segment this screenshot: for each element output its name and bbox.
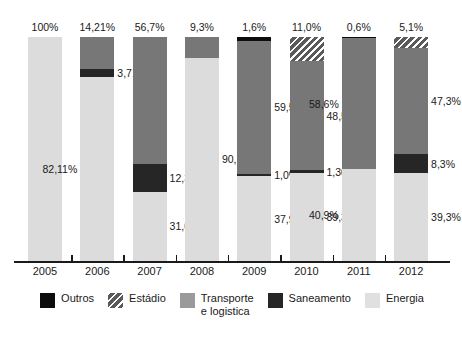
bar-segment-2008-transporte[interactable]: 9,3% bbox=[185, 37, 219, 58]
bar-2011[interactable]: 0,6%58,6%40,9% bbox=[342, 37, 376, 261]
stacked-bar-chart: 100%14,21%3,71%82,11%56,7%12,3%31,0%9,3%… bbox=[0, 0, 462, 337]
x-tick-label-2005: 2005 bbox=[19, 265, 71, 277]
x-tick-2007 bbox=[123, 255, 124, 262]
legend-swatch-estadio-icon bbox=[108, 293, 123, 308]
x-tick-2010 bbox=[280, 255, 281, 262]
value-label-2006-energia: 82,11% bbox=[42, 164, 77, 175]
x-tick-2008 bbox=[176, 255, 177, 262]
legend-swatch-saneamento-icon bbox=[268, 293, 283, 308]
bar-2007[interactable]: 56,7%12,3%31,0% bbox=[133, 37, 167, 261]
plot-area: 100%14,21%3,71%82,11%56,7%12,3%31,0%9,3%… bbox=[0, 0, 462, 262]
chart-legend: OutrosEstádioTransporte e logisticaSanea… bbox=[14, 292, 450, 328]
bar-segment-2007-saneamento[interactable]: 12,3% bbox=[133, 164, 167, 192]
legend-swatch-energia-icon bbox=[365, 293, 380, 308]
x-tick-2012 bbox=[385, 255, 386, 262]
bar-segment-2010-transporte[interactable]: 48,5% bbox=[290, 61, 324, 170]
value-label-2011-transporte: 58,6% bbox=[309, 98, 339, 109]
x-tick-label-2012: 2012 bbox=[385, 265, 437, 277]
bar-2005[interactable]: 100% bbox=[28, 37, 62, 261]
x-tick-2009 bbox=[228, 255, 229, 262]
legend-swatch-outros-icon bbox=[40, 293, 55, 308]
x-tick-label-2006: 2006 bbox=[71, 265, 123, 277]
legend-item-outros[interactable]: Outros bbox=[40, 292, 94, 308]
x-tick-label-2009: 2009 bbox=[228, 265, 280, 277]
bar-segment-2011-energia[interactable]: 40,9% bbox=[342, 169, 376, 261]
bar-segment-2012-transporte[interactable]: 47,3% bbox=[394, 48, 428, 154]
bar-2009[interactable]: 1,6%59,5%1,0%37,9% bbox=[237, 37, 271, 261]
legend-item-estadio[interactable]: Estádio bbox=[108, 292, 166, 308]
bar-segment-2009-transporte[interactable]: 59,5% bbox=[237, 41, 271, 174]
bar-segment-2008-energia[interactable]: 90,7% bbox=[185, 58, 219, 261]
x-tick-label-2008: 2008 bbox=[176, 265, 228, 277]
legend-swatch-transporte-icon bbox=[180, 293, 195, 308]
value-label-2010-estadio: 11,0% bbox=[292, 22, 321, 33]
x-tick-label-2010: 2010 bbox=[281, 265, 333, 277]
bar-segment-2007-energia[interactable]: 31,0% bbox=[133, 192, 167, 261]
bar-segment-2006-saneamento[interactable]: 3,71% bbox=[80, 69, 114, 77]
bar-segment-2009-energia[interactable]: 37,9% bbox=[237, 176, 271, 261]
bar-2010[interactable]: 11,0%48,5%1,30%39,3% bbox=[290, 37, 324, 261]
value-label-2005-energia: 100% bbox=[32, 22, 59, 33]
bar-segment-2011-transporte[interactable]: 58,6% bbox=[342, 38, 376, 169]
legend-label-outros: Outros bbox=[61, 292, 94, 305]
value-label-2012-estadio: 5,1% bbox=[399, 22, 423, 33]
legend-label-transporte: Transporte e logistica bbox=[201, 292, 254, 317]
value-label-2006-transporte: 14,21% bbox=[79, 22, 115, 33]
bar-segment-2006-transporte[interactable]: 14,21% bbox=[80, 37, 114, 69]
value-label-2012-transporte: 47,3% bbox=[431, 96, 461, 107]
x-tick-2006 bbox=[71, 255, 72, 262]
bar-segment-2012-energia[interactable]: 39,3% bbox=[394, 173, 428, 261]
value-label-2011-energia: 40,9% bbox=[309, 210, 339, 221]
bar-segment-2007-transporte[interactable]: 56,7% bbox=[133, 37, 167, 164]
bar-segment-2005-energia[interactable]: 100% bbox=[28, 37, 62, 261]
x-tick-2011 bbox=[333, 255, 334, 262]
bar-2012[interactable]: 5,1%47,3%8,3%39,3% bbox=[394, 37, 428, 261]
value-label-2007-transporte: 56,7% bbox=[135, 22, 165, 33]
bar-segment-2010-estadio[interactable]: 11,0% bbox=[290, 37, 324, 62]
value-label-2008-transporte: 9,3% bbox=[190, 22, 214, 33]
legend-item-energia[interactable]: Energia bbox=[365, 292, 424, 308]
bar-2008[interactable]: 9,3%90,7% bbox=[185, 37, 219, 261]
value-label-2012-energia: 39,3% bbox=[431, 211, 461, 222]
value-label-2012-saneamento: 8,3% bbox=[431, 158, 455, 169]
legend-label-estadio: Estádio bbox=[129, 292, 166, 305]
legend-item-transporte[interactable]: Transporte e logistica bbox=[180, 292, 254, 317]
legend-label-energia: Energia bbox=[386, 292, 424, 305]
x-tick-label-2007: 2007 bbox=[124, 265, 176, 277]
bar-segment-2012-estadio[interactable]: 5,1% bbox=[394, 37, 428, 48]
legend-label-saneamento: Saneamento bbox=[289, 292, 351, 305]
x-tick-label-2011: 2011 bbox=[333, 265, 385, 277]
bar-segment-2006-energia[interactable]: 82,11% bbox=[80, 77, 114, 261]
bar-segment-2012-saneamento[interactable]: 8,3% bbox=[394, 154, 428, 173]
bar-2006[interactable]: 14,21%3,71%82,11% bbox=[80, 37, 114, 261]
value-label-2009-outros: 1,6% bbox=[242, 22, 266, 33]
value-label-2011-outros: 0,6% bbox=[347, 22, 371, 33]
legend-item-saneamento[interactable]: Saneamento bbox=[268, 292, 351, 308]
